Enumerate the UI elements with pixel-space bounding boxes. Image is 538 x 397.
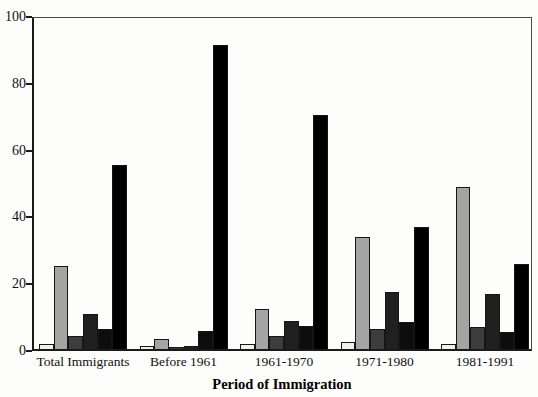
bar-series-1-group-2 bbox=[140, 346, 155, 349]
bar-series-4-group-5 bbox=[485, 294, 500, 349]
y-tick-label-80: 80 bbox=[2, 77, 26, 91]
category-label-4: 1971-1980 bbox=[337, 355, 433, 370]
bar-series-6-group-2 bbox=[213, 45, 228, 349]
bar-group-1 bbox=[39, 165, 127, 349]
bar-series-5-group-5 bbox=[500, 332, 515, 349]
bar-series-5-group-3 bbox=[299, 326, 314, 349]
y-axis-tick-100 bbox=[26, 16, 32, 18]
y-axis-tick-0 bbox=[26, 350, 32, 352]
x-axis-title: Period of Immigration bbox=[32, 376, 532, 393]
y-tick-label-60: 60 bbox=[2, 144, 26, 158]
y-tick-label-20: 20 bbox=[2, 277, 26, 291]
bar-group-4 bbox=[341, 227, 429, 349]
bar-series-6-group-4 bbox=[414, 227, 429, 349]
bar-series-4-group-2 bbox=[184, 346, 199, 349]
plot-area bbox=[32, 17, 532, 351]
category-label-3: 1961-1970 bbox=[236, 355, 332, 370]
category-label-1: Total Immigrants bbox=[35, 355, 131, 370]
bar-series-4-group-3 bbox=[284, 321, 299, 349]
bar-group-2 bbox=[140, 45, 228, 349]
y-axis-tick-40 bbox=[26, 216, 32, 218]
bar-series-4-group-4 bbox=[385, 292, 400, 349]
bar-series-6-group-5 bbox=[514, 264, 529, 349]
y-axis-tick-60 bbox=[26, 150, 32, 152]
bar-series-3-group-4 bbox=[370, 329, 385, 349]
bar-group-5 bbox=[441, 187, 529, 349]
bar-series-5-group-4 bbox=[399, 322, 414, 349]
immigration-bar-chart: Period of Immigration 020406080100Total … bbox=[0, 0, 538, 397]
bar-series-1-group-1 bbox=[39, 344, 54, 349]
bar-group-3 bbox=[240, 115, 328, 349]
bar-series-2-group-3 bbox=[255, 309, 270, 349]
bar-series-3-group-2 bbox=[169, 347, 184, 349]
y-axis-tick-20 bbox=[26, 283, 32, 285]
bar-series-2-group-1 bbox=[54, 266, 69, 350]
bar-series-6-group-3 bbox=[313, 115, 328, 349]
y-tick-label-100: 100 bbox=[2, 10, 26, 24]
y-axis-tick-80 bbox=[26, 83, 32, 85]
bar-series-4-group-1 bbox=[83, 314, 98, 349]
bar-series-1-group-4 bbox=[341, 342, 356, 349]
bar-series-3-group-3 bbox=[269, 336, 284, 349]
bar-series-5-group-1 bbox=[98, 329, 113, 349]
bar-series-6-group-1 bbox=[112, 165, 127, 349]
category-label-2: Before 1961 bbox=[136, 355, 232, 370]
y-tick-label-40: 40 bbox=[2, 210, 26, 224]
bar-series-3-group-1 bbox=[68, 336, 83, 349]
bar-series-2-group-2 bbox=[154, 339, 169, 349]
bar-series-2-group-5 bbox=[456, 187, 471, 349]
bar-series-3-group-5 bbox=[470, 327, 485, 349]
category-label-5: 1981-1991 bbox=[437, 355, 533, 370]
bar-series-2-group-4 bbox=[355, 237, 370, 349]
y-tick-label-0: 0 bbox=[2, 344, 26, 358]
bar-series-1-group-3 bbox=[240, 344, 255, 349]
bar-series-1-group-5 bbox=[441, 344, 456, 349]
bar-series-5-group-2 bbox=[198, 331, 213, 349]
